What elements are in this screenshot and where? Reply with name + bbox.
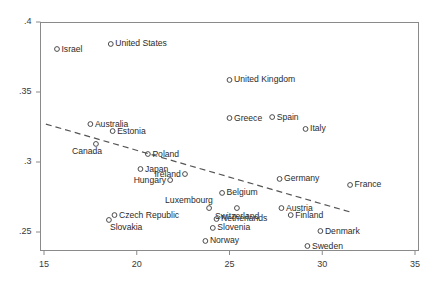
data-point-marker: [88, 122, 93, 127]
data-point-marker: [55, 47, 60, 52]
data-point-label: Belgium: [227, 188, 258, 197]
data-point-marker: [235, 206, 240, 211]
data-point-marker: [305, 244, 310, 249]
data-point-label: Slovakia: [110, 223, 142, 232]
data-point-marker: [318, 229, 323, 234]
data-point-label: Slovenia: [217, 223, 250, 232]
data-point-label: Czech Republic: [119, 211, 179, 220]
data-point-label: France: [355, 180, 382, 189]
x-axis-tick-label: 35: [406, 259, 424, 269]
data-point-label: Luxembourg: [165, 196, 213, 205]
data-point-marker: [270, 115, 275, 120]
data-point-marker: [227, 116, 232, 121]
data-point-marker: [145, 152, 150, 157]
x-axis-tick-label: 20: [128, 259, 146, 269]
data-point-label: Sweden: [312, 242, 343, 251]
data-point-label: Hungary: [134, 176, 166, 185]
data-point-label: Italy: [310, 124, 326, 133]
data-point-marker: [207, 206, 212, 211]
data-point-label: United Kingdom: [234, 75, 295, 84]
scatter-plot-figure: IsraelUnited StatesUnited KingdomGreeceS…: [0, 0, 431, 287]
y-axis-tick-label: .25: [0, 226, 32, 236]
data-point-marker: [210, 226, 215, 231]
data-point-label: United States: [115, 39, 167, 48]
data-point-label: Germany: [284, 174, 319, 183]
data-point-label: Greece: [234, 114, 262, 123]
data-point-marker: [303, 127, 308, 132]
data-point-marker: [288, 213, 293, 218]
data-point-marker: [112, 213, 117, 218]
x-axis-tick-label: 15: [35, 259, 53, 269]
data-point-label: Israel: [61, 45, 82, 54]
data-point-label: Spain: [277, 113, 299, 122]
data-point-label: Poland: [152, 150, 179, 159]
data-point-marker: [108, 42, 113, 47]
data-point-marker: [277, 177, 282, 182]
data-point-marker: [110, 129, 115, 134]
data-point-label: Finland: [295, 211, 323, 220]
data-point-marker: [183, 172, 188, 177]
data-point-marker: [138, 167, 143, 172]
data-point-marker: [203, 239, 208, 244]
y-axis-tick-label: .4: [0, 16, 32, 26]
data-point-label: Norway: [210, 236, 239, 245]
y-axis-tick-label: .3: [0, 156, 32, 166]
data-point-marker: [279, 206, 284, 211]
x-axis-tick-label: 30: [313, 259, 331, 269]
data-point-label: Canada: [72, 147, 102, 156]
data-point-label: Denmark: [325, 227, 360, 236]
y-axis-tick-label: .35: [0, 86, 32, 96]
data-point-marker: [227, 78, 232, 83]
data-point-label: Estonia: [117, 127, 146, 136]
x-axis-tick-label: 25: [221, 259, 239, 269]
data-point-marker: [348, 183, 353, 188]
data-point-marker: [220, 191, 225, 196]
